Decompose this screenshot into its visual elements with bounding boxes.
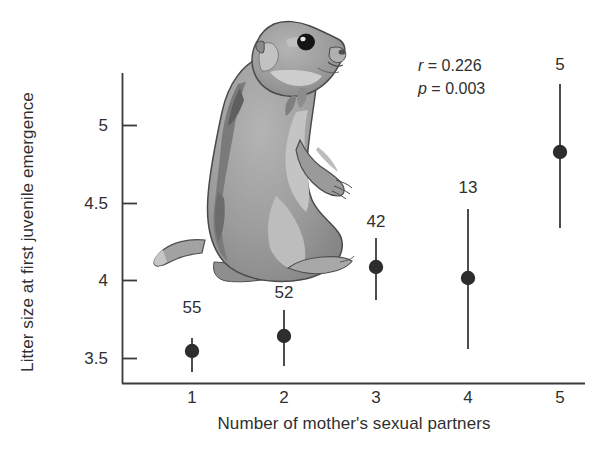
x-tick-label-2: 2 [264, 389, 304, 406]
x-tick-label-1: 1 [172, 389, 212, 406]
point-count-label-4: 13 [445, 179, 491, 196]
point-count-label-3: 42 [353, 213, 399, 230]
x-tick-label-3: 3 [356, 389, 396, 406]
y-axis-title: Litter size at first juvenile emergence [18, 52, 38, 412]
y-axis-ticks [122, 126, 137, 359]
prairie-dog-illustration [154, 22, 354, 282]
correlation-statistic: r = 0.226 [418, 54, 485, 77]
y-tick-label-3-5: 3.5 [60, 350, 108, 367]
y-tick-label-4-5: 4.5 [60, 195, 108, 212]
x-axis-title: Number of mother's sexual partners [122, 414, 586, 434]
p-symbol: p [418, 80, 427, 97]
x-tick-label-4: 4 [448, 389, 488, 406]
pvalue-statistic: p = 0.003 [418, 77, 485, 100]
data-point-4 [461, 209, 475, 349]
x-tick-label-5: 5 [540, 389, 580, 406]
figure-container: Litter size at first juvenile emergence … [0, 0, 600, 460]
point-count-label-5: 5 [537, 56, 583, 73]
y-tick-label-5: 5 [60, 117, 108, 134]
point-count-label-1: 55 [169, 299, 215, 316]
y-tick-label-4: 4 [60, 272, 108, 289]
p-value: = 0.003 [427, 80, 485, 97]
statistics-annotation: r = 0.226 p = 0.003 [418, 54, 485, 100]
data-point-3 [369, 238, 383, 300]
point-count-label-2: 52 [261, 284, 307, 301]
r-value: = 0.226 [423, 57, 481, 74]
data-point-1 [185, 338, 199, 372]
data-point-5 [553, 84, 567, 228]
data-point-2 [277, 310, 291, 366]
